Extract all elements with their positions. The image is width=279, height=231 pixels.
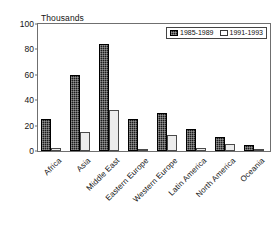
legend-entry: 1991-1993 xyxy=(220,29,263,37)
bar xyxy=(254,149,264,151)
bar xyxy=(196,148,206,151)
bar xyxy=(157,113,167,151)
x-axis-category-label: Oceania xyxy=(238,156,266,184)
bar xyxy=(225,144,235,151)
bars-layer xyxy=(38,24,270,151)
bar-group xyxy=(186,24,206,151)
bar xyxy=(80,132,90,151)
bar xyxy=(41,119,51,151)
bar-group xyxy=(70,24,90,151)
legend-label: 1985-1989 xyxy=(180,29,213,37)
legend-label: 1991-1993 xyxy=(230,29,263,37)
bar-group xyxy=(128,24,148,151)
bar-group xyxy=(157,24,177,151)
bar xyxy=(128,119,138,151)
bar xyxy=(244,145,254,151)
bar xyxy=(186,129,196,151)
bar xyxy=(99,44,109,151)
bar xyxy=(51,148,61,151)
y-axis-title: Thousands xyxy=(41,13,84,23)
bar xyxy=(215,137,225,151)
bar-group xyxy=(41,24,61,151)
bar xyxy=(167,135,177,152)
legend-swatch xyxy=(170,30,178,36)
bar-chart: Thousands 020406080100 1985-19891991-199… xyxy=(0,0,279,231)
plot-area: 020406080100 1985-19891991-1993 xyxy=(37,23,271,152)
legend-entry: 1985-1989 xyxy=(170,29,213,37)
bar xyxy=(138,149,148,151)
bar xyxy=(70,75,80,151)
bar-group xyxy=(215,24,235,151)
chart-legend: 1985-19891991-1993 xyxy=(166,27,267,39)
bar-group xyxy=(244,24,264,151)
bar xyxy=(109,110,119,151)
x-axis-category-label: Africa xyxy=(42,156,63,177)
bar-group xyxy=(99,24,119,151)
legend-swatch xyxy=(220,30,228,36)
x-axis-category-label: Asia xyxy=(75,156,93,174)
x-axis-labels: AfricaAsiaMiddle EastEastern EuropeWeste… xyxy=(0,152,279,231)
